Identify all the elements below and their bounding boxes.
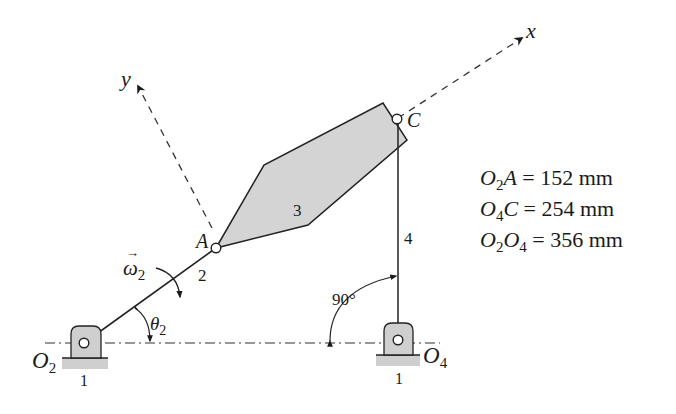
x-axis <box>398 38 522 118</box>
ground-1-right-label: 1 <box>395 370 403 387</box>
joint-a <box>211 243 221 253</box>
link-4-label: 4 <box>404 229 413 248</box>
theta2-label: θ2 <box>150 313 166 338</box>
point-a-label: A <box>194 230 209 252</box>
given-o2o4: O2O4 = 356 mm <box>480 224 623 255</box>
omega2-label: ω2 <box>123 256 145 283</box>
y-axis <box>138 86 212 228</box>
ninety-degree-label: 90° <box>332 290 356 309</box>
omega2-vector-arrow: → <box>126 245 139 260</box>
y-axis-label: y <box>119 66 131 91</box>
point-o4-label: O4 <box>423 343 448 371</box>
theta2-arc <box>135 308 150 341</box>
link-3-label: 3 <box>293 201 302 220</box>
ground-pivot-o2 <box>62 326 108 369</box>
given-o4c: O4C = 254 mm <box>480 193 623 224</box>
link-2-label: 2 <box>198 266 207 285</box>
given-dimensions: O2A = 152 mm O4C = 254 mm O2O4 = 356 mm <box>480 162 623 255</box>
joint-c <box>392 114 402 124</box>
point-o2-label: O2 <box>32 348 56 376</box>
x-axis-label: x <box>525 18 536 43</box>
point-c-label: C <box>407 109 421 131</box>
coupler-link-3 <box>216 103 407 248</box>
given-o2a: O2A = 152 mm <box>480 162 623 193</box>
ground-1-left-label: 1 <box>80 372 88 389</box>
ground-pivot-o4 <box>376 323 420 366</box>
